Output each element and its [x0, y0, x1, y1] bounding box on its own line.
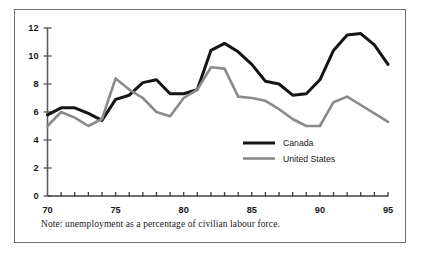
legend-label-united-states: United States [283, 154, 336, 164]
x-tick-label: 85 [247, 205, 257, 215]
legend-label-canada: Canada [283, 138, 314, 148]
series-line-canada [48, 34, 389, 121]
y-tick-label: 12 [28, 23, 38, 33]
y-tick-label: 4 [33, 135, 39, 145]
y-tick-label: 8 [33, 79, 38, 89]
y-tick-label: 0 [33, 191, 38, 201]
x-tick-label: 95 [383, 205, 393, 215]
chart-legend: CanadaUnited States [243, 138, 336, 164]
x-tick-label: 80 [179, 205, 189, 215]
figure-container: 024681012 707580859095 CanadaUnited Stat… [0, 0, 421, 254]
data-series-group [48, 34, 389, 126]
x-axis: 707580859095 [42, 192, 393, 215]
y-axis: 024681012 [28, 23, 51, 201]
y-tick-label: 2 [33, 163, 38, 173]
y-tick-label: 6 [33, 107, 38, 117]
y-tick-label: 10 [28, 51, 38, 61]
figure-note: Note: unemployment as a percentage of ci… [41, 219, 280, 229]
x-tick-label: 75 [110, 205, 120, 215]
x-tick-label: 70 [42, 205, 52, 215]
x-tick-label: 90 [315, 205, 325, 215]
line-chart: 024681012 707580859095 CanadaUnited Stat… [0, 0, 421, 254]
